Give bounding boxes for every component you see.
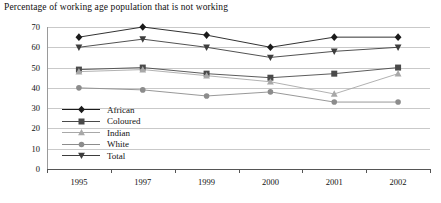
legend-marker-icon xyxy=(62,150,100,161)
legend-label: Indian xyxy=(107,128,130,138)
data-point-marker xyxy=(76,33,83,41)
data-point-marker xyxy=(267,43,274,51)
y-axis-labels: 010203040506070 xyxy=(8,0,40,203)
x-axis-tick xyxy=(47,169,48,173)
legend-item-coloured[interactable]: Coloured xyxy=(62,116,141,128)
x-axis-tick-label: 1999 xyxy=(183,177,231,187)
x-axis-tick xyxy=(239,169,240,173)
legend-marker-icon xyxy=(62,104,100,115)
data-point-marker xyxy=(395,70,402,76)
x-axis-tick-label: 2001 xyxy=(310,177,358,187)
legend-label: Coloured xyxy=(107,116,141,126)
legend-marker-icon xyxy=(62,139,100,150)
legend-marker-icon xyxy=(62,116,100,127)
data-point-marker xyxy=(76,44,83,50)
data-point-marker xyxy=(395,99,401,105)
y-axis-tick-label: 10 xyxy=(12,145,40,154)
data-point-marker xyxy=(268,89,274,95)
x-axis-tick xyxy=(366,169,367,173)
chart-legend: AfricanColouredIndianWhiteTotal xyxy=(62,104,141,162)
data-point-marker xyxy=(139,23,146,31)
legend-item-white[interactable]: White xyxy=(62,139,141,151)
y-axis-tick-label: 20 xyxy=(12,124,40,133)
legend-item-indian[interactable]: Indian xyxy=(62,127,141,139)
legend-label: Total xyxy=(107,151,125,161)
series-line-coloured xyxy=(79,68,398,78)
series-line-indian xyxy=(79,70,398,94)
y-axis-tick-label: 40 xyxy=(12,84,40,93)
x-axis-tick-label: 2000 xyxy=(246,177,294,187)
data-point-marker xyxy=(331,33,338,41)
data-point-marker xyxy=(267,55,274,61)
data-point-marker xyxy=(76,85,82,91)
x-axis-tick-label: 2002 xyxy=(374,177,422,187)
data-point-marker xyxy=(203,31,210,39)
series-line-total xyxy=(79,39,398,57)
y-axis-tick-label: 50 xyxy=(12,64,40,73)
series-line-african xyxy=(79,27,398,47)
legend-label: White xyxy=(107,139,129,149)
data-point-marker xyxy=(395,33,402,41)
data-point-marker xyxy=(78,129,85,135)
data-point-marker xyxy=(395,65,401,71)
series-line-white xyxy=(79,88,398,102)
y-axis-tick-label: 70 xyxy=(12,23,40,32)
legend-marker-icon xyxy=(62,127,100,138)
data-point-marker xyxy=(79,141,85,147)
x-axis-tick-label: 1997 xyxy=(119,177,167,187)
chart-container: Percentage of working age population tha… xyxy=(0,0,441,203)
data-point-marker xyxy=(79,118,85,124)
data-point-marker xyxy=(78,106,85,114)
legend-item-african[interactable]: African xyxy=(62,104,141,116)
x-axis-tick xyxy=(302,169,303,173)
data-point-marker xyxy=(204,93,210,99)
y-axis-tick-label: 0 xyxy=(12,165,40,174)
data-point-marker xyxy=(140,87,146,93)
x-axis-tick xyxy=(111,169,112,173)
legend-label: African xyxy=(107,105,134,115)
x-axis-tick xyxy=(175,169,176,173)
data-point-marker xyxy=(331,99,337,105)
y-axis-tick-label: 30 xyxy=(12,104,40,113)
x-axis-tick-label: 1995 xyxy=(55,177,103,187)
y-axis-tick-label: 60 xyxy=(12,43,40,52)
data-point-marker xyxy=(78,153,85,159)
legend-item-total[interactable]: Total xyxy=(62,150,141,162)
x-axis-tick xyxy=(430,169,431,173)
data-point-marker xyxy=(331,71,337,77)
